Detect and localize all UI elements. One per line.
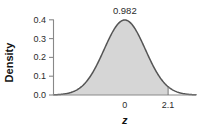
y-axis-label: Density — [4, 33, 15, 93]
x-axis-tick-labels: 0 2.1 — [0, 0, 199, 129]
x-tick-zero: 0 — [122, 101, 127, 110]
area-annotation: 0.982 — [103, 6, 147, 16]
density-chart-figure: 0.4 0.3 0.2 0.1 0.0 0 2.1 Density z 0.98… — [0, 0, 199, 129]
x-tick-2.1: 2.1 — [162, 101, 175, 110]
x-axis-label: z — [105, 115, 145, 126]
